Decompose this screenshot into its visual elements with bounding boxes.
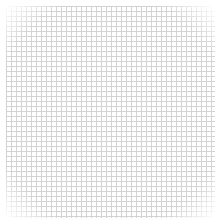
canvas: [0, 0, 221, 224]
graph-paper-grid: [6, 6, 215, 218]
